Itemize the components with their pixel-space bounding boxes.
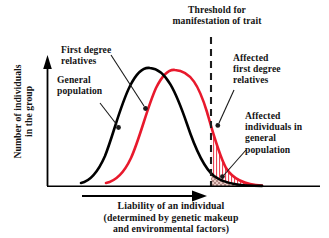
affected-first-degree-relatives-label: Affected first degree relatives (233, 52, 281, 86)
general-population-leader-line (100, 103, 117, 125)
affected-first-degree-region (0, 0, 268, 186)
general-population-label: General population (57, 74, 102, 96)
x-axis-label: Liability of an individual (determined b… (56, 200, 286, 235)
affected-first-degree-leader-line (219, 90, 234, 123)
first-degree-leader-dot (143, 106, 148, 111)
affected-general-leader-line (224, 150, 246, 175)
threshold-liability-figure: Threshold for manifestation of trait Fir… (0, 0, 329, 238)
first-degree-relatives-label: First degree relatives (61, 44, 111, 66)
affected-general-leader-dot (220, 174, 225, 179)
y-axis-arrowhead (43, 55, 52, 69)
y-axis-label: Number of individuals in the group (12, 49, 35, 173)
general-population-leader-dot (116, 125, 121, 130)
affected-first-degree-leader-dot (215, 123, 220, 128)
threshold-label: Threshold for manifestation of trait (152, 4, 282, 26)
affected-general-population-label: Affected individuals in general populati… (245, 110, 302, 155)
first-degree-leader-line (111, 55, 144, 106)
